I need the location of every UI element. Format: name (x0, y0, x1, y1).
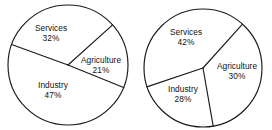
pie-left-label-agriculture: Agriculture 21% (68, 55, 134, 75)
pie-right-label-agriculture-value: 30% (204, 71, 270, 81)
pie-right-label-services: Services 42% (155, 27, 217, 47)
pie-left-label-services-name: Services (20, 23, 82, 33)
pie-left-label-industry-value: 47% (22, 90, 84, 100)
pie-right-label-industry-name: Industry (152, 84, 214, 94)
pie-left-label-services: Services 32% (20, 23, 82, 43)
pie-left-label-industry-name: Industry (22, 80, 84, 90)
pie-left-label-agriculture-value: 21% (68, 65, 134, 75)
pie-left-label-services-value: 32% (20, 33, 82, 43)
pie-right-label-services-name: Services (155, 27, 217, 37)
pie-left-label-agriculture-name: Agriculture (68, 55, 134, 65)
pie-right-label-industry-value: 28% (152, 94, 214, 104)
pie-right-label-agriculture: Agriculture 30% (204, 61, 270, 81)
pie-left-label-industry: Industry 47% (22, 80, 84, 100)
pie-charts-figure: Services 32% Agriculture 21% Industry 47… (0, 0, 272, 130)
pie-right-label-industry: Industry 28% (152, 84, 214, 104)
pie-right-label-agriculture-name: Agriculture (204, 61, 270, 71)
pie-right-label-services-value: 42% (155, 37, 217, 47)
